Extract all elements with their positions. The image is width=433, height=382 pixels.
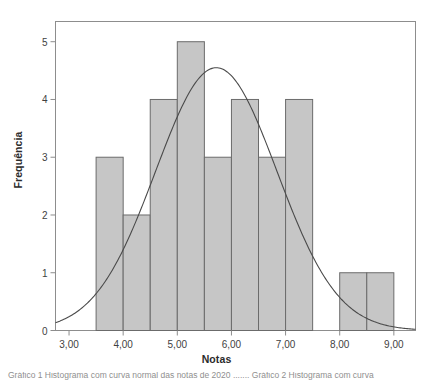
histogram-bar — [286, 99, 313, 330]
histogram-bar — [204, 157, 231, 330]
x-tick-label: 3,00 — [59, 339, 78, 350]
x-tick-label: 6,00 — [222, 339, 241, 350]
histogram-plot — [0, 0, 433, 382]
y-tick-label: 5 — [32, 36, 48, 47]
x-tick-label: 7,00 — [276, 339, 295, 350]
x-tick-label: 9,00 — [384, 339, 403, 350]
cropped-caption-region: Gráfico 1 Histograma com curva normal da… — [0, 372, 433, 382]
x-tick-label: 8,00 — [330, 339, 349, 350]
x-axis-title: Notas — [0, 353, 433, 365]
histogram-bar — [367, 273, 394, 331]
histogram-bar — [177, 42, 204, 331]
y-tick-label: 3 — [32, 152, 48, 163]
cropped-caption-text: Gráfico 1 Histograma com curva normal da… — [8, 372, 374, 380]
histogram-bar — [231, 99, 258, 330]
histogram-bar — [96, 157, 123, 330]
y-tick-label: 4 — [32, 94, 48, 105]
histogram-figure: Frequência Notas 3,004,005,006,007,008,0… — [0, 0, 433, 382]
histogram-bar — [150, 99, 177, 330]
histogram-bar — [123, 215, 150, 331]
x-tick-label: 5,00 — [168, 339, 187, 350]
y-tick-label: 0 — [32, 325, 48, 336]
y-tick-label: 2 — [32, 209, 48, 220]
y-axis-title: Frequência — [12, 120, 24, 200]
y-tick-label: 1 — [32, 267, 48, 278]
x-tick-label: 4,00 — [113, 339, 132, 350]
